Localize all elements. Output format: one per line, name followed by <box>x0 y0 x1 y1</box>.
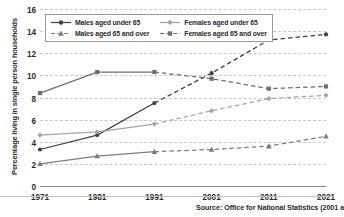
data-point-square-icon <box>210 77 214 81</box>
x-axis-tick-label: 1981 <box>88 193 106 202</box>
data-point-diamond-icon <box>266 96 271 101</box>
y-axis-tick-label: 14 <box>27 28 36 37</box>
x-axis-tick-label: 2001 <box>202 193 220 202</box>
y-axis-tick-label: 16 <box>27 6 36 15</box>
x-axis-tick-label: 1971 <box>31 193 49 202</box>
data-point-diamond-icon <box>323 93 328 98</box>
data-point-diamond-icon <box>37 132 42 137</box>
bottom-divider <box>0 196 334 197</box>
legend-label: Females aged 65 and over <box>184 30 266 37</box>
data-point-triangle-icon <box>323 133 329 138</box>
legend-item-females-under-65: Females aged under 65 <box>159 18 266 27</box>
series-line <box>154 95 326 124</box>
y-axis-tick-label: 10 <box>27 72 36 81</box>
series-line <box>154 34 326 103</box>
data-point-square-icon <box>267 87 271 91</box>
legend-label: Males aged 65 and over <box>75 30 149 37</box>
y-axis-title: Percentage living in single person house… <box>10 7 19 187</box>
y-axis-tick-label: 12 <box>27 50 36 59</box>
data-point-square-icon <box>95 70 99 74</box>
legend-marker-square-icon <box>159 29 181 38</box>
x-axis-tick-label: 2011 <box>260 193 278 202</box>
data-point-circle-icon <box>324 32 328 36</box>
data-point-square-icon <box>168 31 172 35</box>
data-point-square-icon <box>152 70 156 74</box>
series-line <box>154 72 326 89</box>
legend-marker-triangle-icon <box>50 29 72 38</box>
gridline: 0 <box>40 186 326 187</box>
legend-item-females-65-and-over: Females aged 65 and over <box>159 29 266 38</box>
data-point-circle-icon <box>152 101 156 105</box>
series-line <box>154 136 326 151</box>
data-point-diamond-icon <box>152 121 157 126</box>
chart-legend: Males aged under 65 Females aged under 6… <box>45 14 273 42</box>
source-attribution: Source: Office for National Statistics (… <box>196 203 344 212</box>
legend-marker-diamond-icon <box>159 18 181 27</box>
data-point-square-icon <box>38 91 42 95</box>
x-axis-tick-label: 2021 <box>317 193 335 202</box>
data-point-diamond-icon <box>168 20 174 26</box>
y-axis-tick-label: 2 <box>31 160 36 169</box>
legend-label: Females aged under 65 <box>184 19 257 26</box>
legend-label: Males aged under 65 <box>75 19 140 26</box>
data-point-circle-icon <box>210 71 214 75</box>
data-point-circle-icon <box>59 20 63 24</box>
y-axis-tick-label: 0 <box>31 183 36 192</box>
legend-item-males-65-and-over: Males aged 65 and over <box>50 29 149 38</box>
data-point-diamond-icon <box>209 108 214 113</box>
y-axis-tick-label: 8 <box>31 94 36 103</box>
legend-item-males-under-65: Males aged under 65 <box>50 18 149 27</box>
legend-marker-circle-icon <box>50 18 72 27</box>
series-line <box>40 72 154 93</box>
y-axis-tick-label: 6 <box>31 116 36 125</box>
data-point-circle-icon <box>38 147 42 151</box>
y-axis-tick-label: 4 <box>31 138 36 147</box>
data-point-square-icon <box>324 84 328 88</box>
x-axis-tick-label: 1991 <box>145 193 163 202</box>
